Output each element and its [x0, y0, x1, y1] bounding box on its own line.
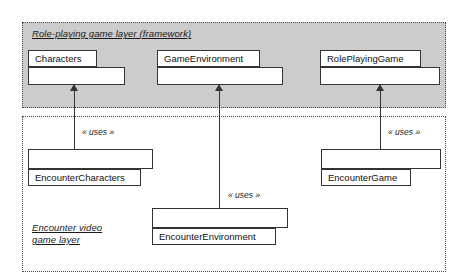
class-encounter-environment-body	[152, 208, 288, 228]
class-encounter-characters-body	[28, 149, 153, 169]
diagram-canvas: Role-playing game layer (framework) Char…	[0, 0, 468, 278]
dependency-line-game	[380, 90, 381, 149]
class-game-environment-body	[157, 67, 283, 85]
class-encounter-environment-name: EncounterEnvironment	[152, 228, 276, 245]
class-encounter-game-body	[321, 149, 441, 169]
class-game-environment-name: GameEnvironment	[157, 50, 260, 67]
class-characters-body	[28, 67, 125, 85]
dependency-arrowhead-characters	[70, 84, 78, 91]
dependency-arrowhead-game	[376, 84, 384, 91]
class-encounter-characters-name: EncounterCharacters	[28, 169, 141, 186]
dependency-line-environment	[219, 90, 220, 208]
class-characters-name: Characters	[28, 50, 97, 67]
class-role-playing-game-name: RolePlayingGame	[320, 50, 421, 67]
dependency-label-environment: « uses »	[228, 190, 260, 200]
dependency-label-game: « uses »	[388, 127, 420, 137]
encounter-layer-title: Encounter video game layer	[32, 222, 102, 246]
class-role-playing-game-body	[320, 67, 440, 85]
framework-layer-title: Role-playing game layer (framework)	[32, 28, 191, 40]
dependency-line-characters	[74, 90, 75, 149]
class-encounter-game-name: EncounterGame	[321, 169, 411, 186]
dependency-arrowhead-environment	[215, 84, 223, 91]
dependency-label-characters: « uses »	[82, 127, 114, 137]
